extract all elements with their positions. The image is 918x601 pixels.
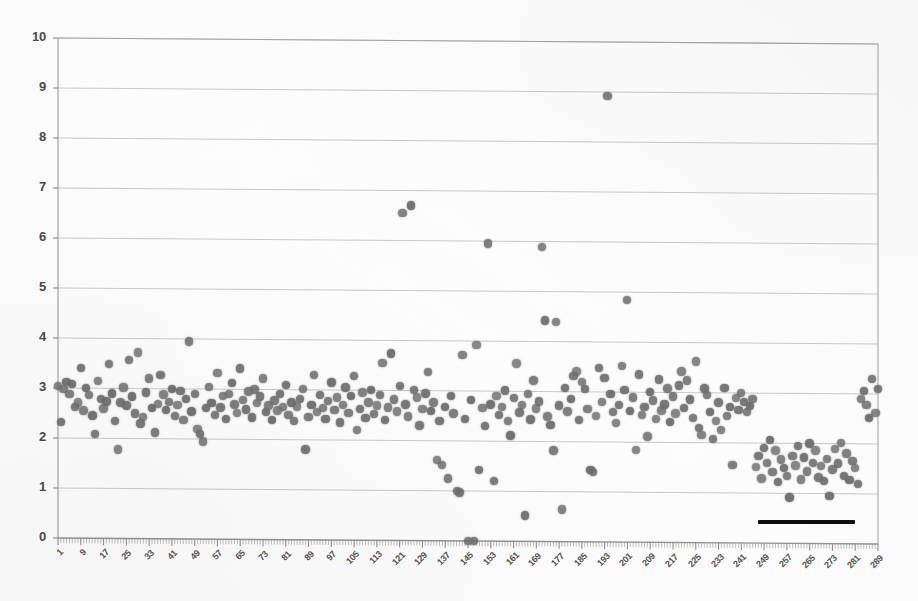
data-point: [785, 493, 794, 502]
data-point: [746, 402, 754, 410]
data-point: [862, 401, 871, 410]
data-point: [108, 389, 117, 398]
data-point: [270, 396, 278, 404]
data-point: [230, 400, 239, 409]
data-point: [677, 367, 686, 376]
data-point: [378, 359, 387, 368]
data-point: [541, 316, 549, 324]
data-point: [114, 445, 122, 453]
data-point: [407, 201, 416, 210]
data-point: [845, 476, 853, 484]
data-point: [171, 412, 179, 420]
data-point: [709, 435, 717, 443]
data-point: [783, 472, 791, 480]
data-point: [179, 416, 188, 425]
data-point: [156, 371, 164, 379]
data-point: [373, 401, 382, 410]
data-point: [79, 406, 88, 415]
y-axis-tick-label: 4: [24, 329, 46, 344]
data-point: [449, 409, 458, 418]
data-point: [549, 446, 558, 455]
data-point: [555, 401, 563, 409]
data-point: [154, 400, 162, 408]
data-point: [339, 401, 347, 409]
data-point: [655, 375, 663, 383]
data-point: [558, 505, 567, 514]
data-point: [757, 474, 766, 483]
data-point: [421, 389, 430, 398]
data-point: [128, 392, 136, 400]
data-point: [344, 409, 353, 418]
data-point: [134, 348, 142, 356]
data-point: [515, 408, 524, 417]
data-point: [236, 364, 245, 373]
data-point: [572, 367, 581, 376]
data-point: [458, 351, 467, 360]
data-point: [401, 400, 410, 409]
data-point: [697, 431, 705, 439]
data-point: [296, 395, 304, 403]
data-point: [447, 392, 455, 400]
data-point: [618, 362, 626, 370]
data-point: [484, 239, 492, 247]
data-point: [766, 436, 774, 444]
data-point: [734, 406, 743, 415]
data-point: [837, 439, 845, 447]
data-point: [415, 421, 424, 430]
data-point: [396, 382, 404, 390]
data-point: [692, 357, 701, 366]
data-point: [361, 414, 369, 422]
data-point: [561, 384, 569, 392]
data-point: [404, 412, 412, 420]
data-point: [467, 396, 475, 404]
data-point: [777, 455, 786, 464]
y-axis-tick-label: 8: [24, 129, 46, 144]
data-point: [703, 391, 711, 399]
data-point: [526, 415, 534, 423]
data-point: [299, 385, 307, 393]
data-point: [809, 459, 817, 467]
scatter-chart: 012345678910 191725334149576573818997105…: [0, 0, 918, 601]
data-point: [268, 416, 276, 424]
data-point: [567, 395, 575, 403]
data-point: [393, 407, 402, 416]
data-point: [538, 243, 546, 251]
data-point: [871, 409, 880, 418]
data-point: [825, 492, 833, 500]
data-point: [94, 377, 103, 386]
data-point: [752, 463, 760, 471]
data-point: [649, 396, 658, 405]
data-point: [552, 318, 560, 326]
data-point: [501, 386, 510, 395]
data-point: [384, 403, 392, 411]
data-point: [122, 401, 131, 410]
data-point: [803, 467, 811, 475]
data-point: [521, 511, 530, 520]
data-point: [304, 413, 312, 421]
data-point: [413, 393, 421, 401]
data-point: [410, 386, 418, 394]
data-point: [635, 370, 644, 379]
data-point: [131, 409, 140, 418]
data-point: [689, 414, 697, 422]
y-axis-tick-label: 7: [24, 179, 46, 194]
y-axis-tick-label: 5: [24, 279, 46, 294]
data-point: [151, 428, 160, 437]
data-point: [680, 404, 688, 412]
data-point: [390, 395, 398, 403]
data-point: [660, 400, 668, 408]
data-point: [77, 364, 85, 372]
data-point: [319, 404, 327, 412]
data-point: [455, 488, 463, 496]
data-point: [259, 374, 268, 383]
data-point: [506, 431, 515, 440]
data-point: [791, 461, 800, 470]
data-point: [424, 368, 432, 376]
data-point: [330, 406, 339, 415]
chart-axes-layer: [0, 0, 918, 601]
data-point: [510, 394, 518, 402]
data-point: [470, 537, 478, 545]
y-axis-tick-label: 6: [24, 229, 46, 244]
data-point: [358, 388, 367, 397]
data-point: [199, 437, 207, 445]
